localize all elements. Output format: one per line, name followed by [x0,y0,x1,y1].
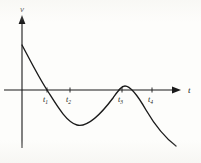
tick-label-t1: t1 [43,95,48,105]
t-axis-label: t [188,85,191,95]
v-axis-label: v [20,4,24,14]
tick-label-t4: t4 [148,95,153,105]
tick-label-t3: t3 [118,95,123,105]
t-axis-arrowhead [172,87,181,94]
v-axis-arrowhead [19,15,26,24]
tick-label-t2: t2 [66,95,71,105]
velocity-time-graph: v t t1 t2 t3 t4 [0,0,201,163]
